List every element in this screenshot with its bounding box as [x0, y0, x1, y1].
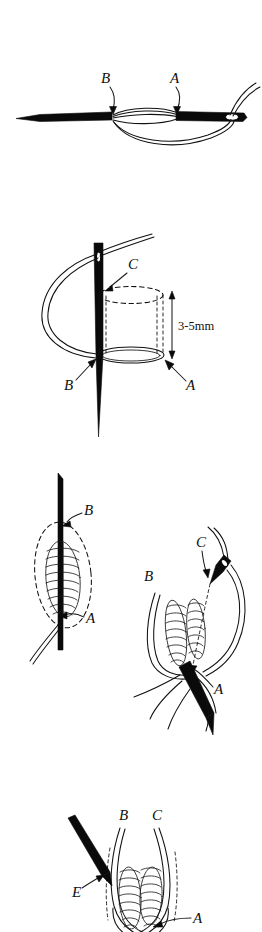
leader-e-panel4	[82, 878, 98, 888]
thread-left-limb-right-view-inner	[154, 595, 187, 675]
leader-c-panel3-right	[202, 551, 206, 571]
panel-needle-with-thread-loops: B A	[0, 55, 262, 170]
thread-from-eye-2	[100, 237, 154, 256]
needle-shaft-left	[16, 112, 112, 122]
thread-limb-b-outer	[111, 828, 142, 932]
dimension-arrow-bottom	[169, 351, 175, 359]
label-a-panel3-left: A	[85, 610, 96, 626]
needle-shaft-left-view	[58, 473, 63, 650]
label-b-panel3-left: B	[84, 502, 93, 518]
leader-e-arrowhead-panel4	[96, 875, 104, 882]
leader-b-panel3-left	[67, 513, 82, 522]
leader-b-panel2	[76, 365, 90, 380]
subfigure-left-needle-through-tissue: B A	[30, 473, 97, 664]
needle-shaft-e	[68, 815, 110, 876]
leader-b-arrowhead-panel2	[88, 359, 96, 368]
thread-left-loop-inner	[48, 258, 98, 354]
leader-c-panel2	[110, 273, 127, 287]
panel-tissue-pass-two-views: B A	[0, 465, 262, 770]
label-c-panel3-right: C	[196, 534, 207, 550]
thread-limb-b-inner	[117, 829, 145, 932]
label-e-panel4: E	[71, 884, 81, 900]
leader-a-arrowhead-panel2	[165, 360, 174, 370]
label-b-panel1: B	[101, 70, 110, 86]
thread-from-eye-1	[99, 234, 152, 252]
thread-up-right-view-2	[214, 528, 228, 560]
label-b-panel4: B	[119, 807, 128, 823]
needle-shaft-right-view-lower	[179, 661, 214, 718]
panel-final-loop-placement: B C E A	[0, 790, 262, 932]
illustration-sheet: B A	[0, 0, 262, 932]
thread-loop-4	[113, 119, 177, 124]
subfigure-right-needle-through-tissue: C B A	[134, 527, 245, 735]
leader-c-arrowhead-panel3-right	[203, 569, 210, 578]
tissue-texture-panel4	[117, 866, 163, 929]
label-a-panel4: A	[192, 910, 203, 926]
thread-left-loop-outer	[42, 254, 97, 358]
leader-c-arrowhead-panel2	[105, 285, 113, 291]
needle-eye	[226, 114, 239, 120]
label-c-panel4: C	[152, 807, 163, 823]
needle-shaft-vertical	[94, 243, 103, 437]
thread-bottom-fold-1	[134, 675, 180, 697]
thread-tail-left-view-1	[30, 625, 58, 661]
thread-tail-left-view-2	[33, 628, 60, 664]
label-c-panel2: C	[128, 256, 139, 272]
leader-a-panel4	[160, 918, 191, 924]
tissue-bottom-ellipse-inner	[102, 350, 160, 361]
tissue-texture-left-view	[43, 540, 83, 619]
label-b-panel2: B	[64, 377, 73, 393]
label-a-panel1: A	[169, 70, 180, 86]
thread-loop-3	[113, 114, 177, 118]
dashed-track-left	[106, 848, 110, 920]
thread-up-right-view-1	[208, 527, 224, 557]
thread-bottom-fold-4	[168, 689, 190, 729]
thread-right-loop-inner	[203, 570, 240, 672]
dimension-arrow-top	[169, 291, 175, 299]
panel-vertical-needle-bite-depth: 3-5mm C B A	[0, 225, 262, 440]
tissue-texture-right-view	[162, 598, 208, 667]
thread-tail-1	[230, 83, 256, 115]
dimension-label-3-5mm: 3-5mm	[178, 319, 214, 333]
label-a-panel2: A	[185, 377, 196, 393]
label-a-panel3-right: A	[213, 681, 224, 697]
dashed-track-right	[174, 852, 177, 922]
thread-bottom-fold-2	[150, 681, 182, 719]
label-b-panel3-right: B	[144, 568, 153, 584]
leader-a-panel2	[172, 367, 186, 381]
